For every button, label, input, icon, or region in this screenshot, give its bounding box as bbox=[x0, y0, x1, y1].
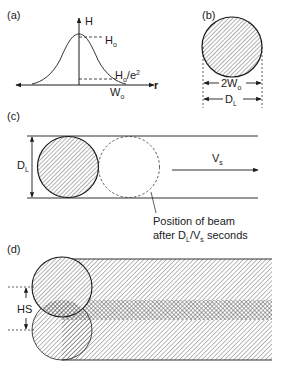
panel-b-beam-cross-section: (b) 2Wo DL bbox=[202, 9, 262, 108]
2w0-label: 2Wo bbox=[221, 77, 242, 91]
dl-label: DL bbox=[225, 93, 237, 107]
caption-line-1: Position of beam bbox=[153, 215, 235, 227]
dl-height-label: DL bbox=[17, 159, 29, 173]
caption-line-2: after DL/Vs seconds bbox=[153, 229, 248, 243]
w0-label: Wo bbox=[110, 86, 124, 100]
panel-c-label: (c) bbox=[7, 110, 20, 122]
hs-label: HS bbox=[17, 303, 32, 315]
overlap-region bbox=[62, 300, 272, 320]
panel-a-label: (a) bbox=[7, 9, 20, 21]
h-axis-label: H bbox=[85, 15, 93, 27]
beam-current-position bbox=[38, 137, 99, 198]
velocity-label: Vs bbox=[212, 152, 223, 166]
panel-b-label: (b) bbox=[202, 9, 215, 21]
caption-leader-line bbox=[151, 192, 156, 213]
panel-d-label: (d) bbox=[7, 243, 20, 255]
panel-a-gaussian-profile: (a) r H Ho Ho/e2 Wo bbox=[7, 9, 159, 100]
panel-d-overlapping-tracks: (d) HS bbox=[7, 243, 272, 360]
r-axis-label: r bbox=[154, 79, 159, 91]
beam-spot-circle bbox=[202, 17, 262, 77]
beam-overlap-diagram: (a) r H Ho Ho/e2 Wo (b) 2Wo DL (c) bbox=[0, 0, 282, 368]
e2-level-label: Ho/e2 bbox=[115, 69, 140, 83]
beam-later-position bbox=[99, 137, 160, 198]
peak-label: Ho bbox=[105, 34, 117, 48]
panel-c-beam-scan: (c) DL Vs Position of beam after DL/Vs s… bbox=[7, 110, 258, 243]
